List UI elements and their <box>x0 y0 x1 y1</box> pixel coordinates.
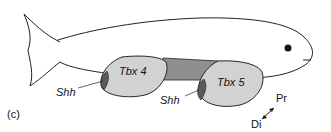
shh-leader-2 <box>185 90 199 96</box>
fish-diagram <box>0 0 331 132</box>
shh-label-1: Shh <box>56 86 76 98</box>
shh-label-2: Shh <box>160 94 180 106</box>
fish-tail <box>24 14 60 86</box>
distal-label: Di <box>251 118 261 130</box>
shh-leader-1 <box>78 81 103 88</box>
tbx4-label: Tbx 4 <box>119 65 147 77</box>
fish-eye <box>285 45 292 52</box>
tbx5-label: Tbx 5 <box>217 76 245 88</box>
proximal-label: Pr <box>276 92 287 104</box>
panel-label: (c) <box>7 108 20 120</box>
